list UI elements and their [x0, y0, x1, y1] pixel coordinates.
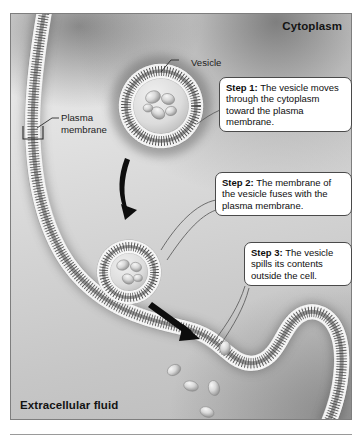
bottom-rule: [10, 434, 352, 435]
vesicle-fusing: [104, 247, 155, 298]
callout-step-3-label: Step 3:: [251, 247, 283, 258]
diagram-illustration: [11, 14, 351, 419]
callout-step-2-label: Step 2:: [222, 177, 254, 188]
released-cargo: [165, 340, 231, 419]
label-cytoplasm: Cytoplasm: [282, 20, 342, 32]
diagram-panel: Cytoplasm Extracellular fluid Vesicle Pl…: [10, 13, 352, 420]
leader-step2b: [167, 210, 216, 260]
label-plasma-membrane-line1: Plasma: [61, 112, 93, 123]
label-vesicle: Vesicle: [191, 57, 221, 69]
label-plasma-membrane: Plasma membrane: [61, 112, 107, 135]
callout-step-3: Step 3: The vesicle spills its contents …: [244, 242, 352, 286]
callout-step-1-label: Step 1:: [226, 82, 258, 93]
leader-step3: [215, 286, 245, 340]
arrow-curved: [119, 158, 137, 220]
vesicle-free: [126, 71, 196, 141]
callout-step-2: Step 2: The membrane of the vesicle fuse…: [215, 172, 352, 216]
label-extracellular-fluid: Extracellular fluid: [20, 399, 118, 411]
leader-step2: [161, 200, 216, 250]
exocytosis-diagram: Cytoplasm Extracellular fluid Vesicle Pl…: [0, 0, 360, 443]
callout-step-1: Step 1: The vesicle moves through the cy…: [219, 77, 352, 132]
leader-step3b: [221, 288, 249, 344]
label-plasma-membrane-line2: membrane: [61, 124, 107, 135]
